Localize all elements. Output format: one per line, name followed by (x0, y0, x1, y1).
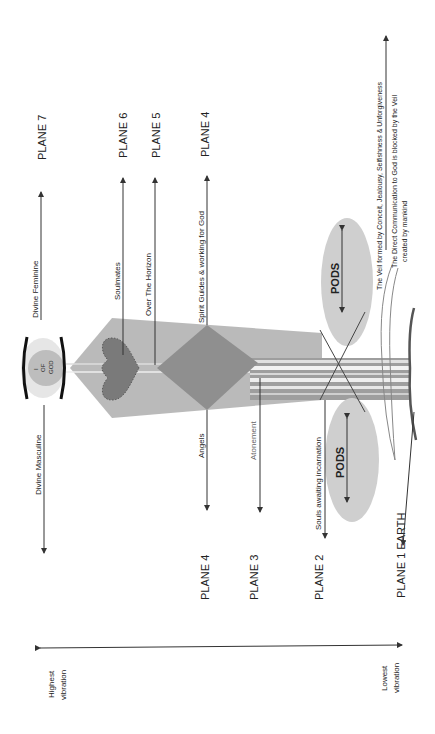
god-label-of: OF (40, 363, 46, 372)
direct-communication-label-1: The Direct Communication to God is block… (391, 94, 399, 268)
soulmates-label: Soulmates (113, 262, 122, 300)
souls-awaiting-label: Souls awaiting incarnation (314, 437, 323, 530)
highest-vibration-label-2: vibration (59, 670, 68, 700)
plane-4-lower-label: PLANE 4 (199, 555, 211, 600)
over-the-horizon-label: Over The Horizon (144, 253, 153, 316)
divine-masculine-label: Divine Masculine (34, 434, 43, 495)
divine-feminine-label: Divine Feminine (31, 260, 40, 318)
plane-2-label: PLANE 2 (313, 555, 325, 600)
earth-base (410, 308, 417, 440)
plane-3-label: PLANE 3 (248, 555, 260, 600)
highest-vibration-label-1: Highest (47, 670, 56, 698)
plane-1-earth-label: PLANE 1 EARTH (395, 513, 407, 598)
plane-6-label: PLANE 6 (117, 113, 129, 158)
angels-label: Angels (197, 434, 206, 458)
veil-formed-label: The Veil formed by Conceit, Jealousy, Se… (376, 81, 384, 290)
earth-arrow (403, 412, 414, 545)
plane-5-label: PLANE 5 (150, 113, 162, 158)
lowest-vibration-label-2: vibration (392, 663, 401, 693)
god-circle: I OF GOD (21, 337, 65, 399)
plane-7-label: PLANE 7 (36, 115, 48, 160)
planes-diagram: PLANE 7 PLANE 6 PLANE 5 PLANE 4 PLANE 4 … (0, 0, 435, 734)
god-label-god: GOD (48, 360, 54, 374)
spirit-guides-label: Spirit Guides & working for God (197, 211, 206, 323)
atonement-label: Atonement (249, 421, 258, 460)
pods-lower-label: PODS (334, 447, 346, 478)
plane-4-upper-label: PLANE 4 (199, 112, 211, 157)
lowest-vibration-label-1: Lowest (380, 665, 389, 691)
vibration-axis (40, 645, 402, 648)
pods-upper-label: PODS (329, 263, 341, 294)
direct-communication-label-2: created by mankind (401, 201, 409, 262)
